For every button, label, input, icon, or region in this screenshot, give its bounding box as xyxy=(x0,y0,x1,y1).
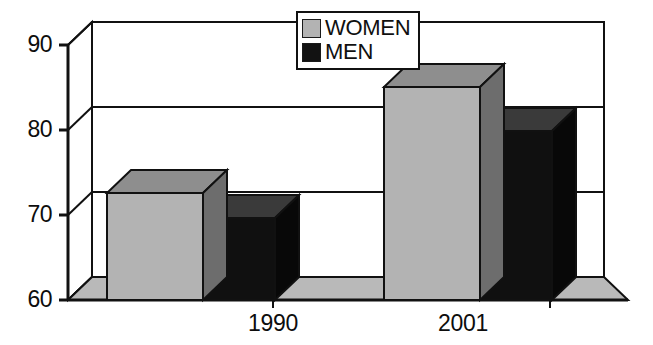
y-axis-label-60: 60 xyxy=(6,288,52,311)
bar-women-2001-side xyxy=(480,64,504,300)
legend-label-women: WOMEN xyxy=(325,17,410,39)
bar-women-1990-front xyxy=(107,193,203,300)
y-axis-tick-labels: 90 80 70 60 xyxy=(0,0,52,345)
left-side-wall xyxy=(68,22,92,300)
legend-label-men: MEN xyxy=(325,41,373,63)
bar-women-2001-front xyxy=(384,87,480,300)
bar-chart-figure: 90 80 70 60 1990 2001 WOMEN MEN xyxy=(0,0,653,345)
legend-swatch-women-icon xyxy=(302,19,321,38)
legend-swatch-men-icon xyxy=(302,43,321,62)
bar-men-2001-side xyxy=(552,108,576,300)
x-axis-label-2001: 2001 xyxy=(375,312,551,335)
legend-entry-men: MEN xyxy=(302,40,410,64)
y-axis-label-80: 80 xyxy=(6,118,52,141)
bar-women-2001 xyxy=(384,64,504,300)
chart-legend: WOMEN MEN xyxy=(296,11,420,70)
y-axis-label-70: 70 xyxy=(6,203,52,226)
bar-women-1990 xyxy=(107,170,227,300)
legend-entry-women: WOMEN xyxy=(302,16,410,40)
bar-women-1990-side xyxy=(203,170,227,300)
y-axis-label-90: 90 xyxy=(6,33,52,56)
x-axis-label-1990: 1990 xyxy=(185,312,361,335)
